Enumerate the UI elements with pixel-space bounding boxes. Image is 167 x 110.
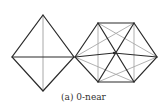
figure-caption: (a) 0-near: [0, 92, 167, 102]
diamond-graph: [12, 15, 74, 91]
hexagon-graph: [75, 23, 157, 82]
